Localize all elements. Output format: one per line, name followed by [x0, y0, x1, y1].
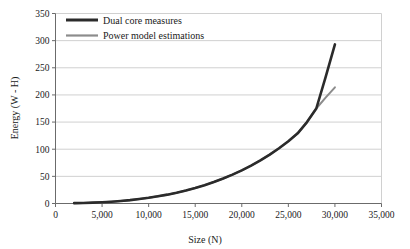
x-tick-label: 15,000 — [182, 210, 208, 220]
x-tick-label: 10,000 — [136, 210, 162, 220]
chart-container: 050100150200250300350 05,00010,00015,000… — [0, 0, 410, 249]
x-tick-label: 20,000 — [229, 210, 255, 220]
legend-label: Power model estimations — [103, 30, 204, 41]
x-axis-title: Size (N) — [188, 234, 222, 246]
y-tick-label: 250 — [35, 63, 50, 73]
x-tick-label: 35,000 — [368, 210, 394, 220]
x-tick-label: 25,000 — [275, 210, 301, 220]
y-tick-label: 200 — [35, 90, 50, 100]
x-tick-label: 5,000 — [91, 210, 113, 220]
line-chart: 050100150200250300350 05,00010,00015,000… — [0, 0, 410, 249]
y-tick-label: 50 — [40, 172, 50, 182]
legend-label: Dual core measures — [103, 15, 182, 26]
y-tick-label: 300 — [35, 36, 50, 46]
y-tick-label: 0 — [45, 199, 50, 209]
y-tick-label: 100 — [35, 145, 50, 155]
x-tick-label: 0 — [53, 210, 58, 220]
y-tick-label: 150 — [35, 117, 50, 127]
y-axis-title: Energy (W - H) — [9, 77, 21, 140]
y-tick-label: 350 — [35, 9, 50, 19]
x-tick-label: 30,000 — [322, 210, 348, 220]
